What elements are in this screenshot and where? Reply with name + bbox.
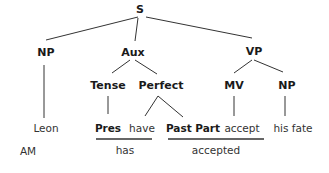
- node-aux: Aux: [121, 47, 144, 58]
- leaf-pres: Pres: [95, 123, 121, 134]
- leaf-his-fate: his fate: [273, 123, 312, 134]
- annotation-accepted: accepted: [192, 145, 240, 156]
- node-mv: MV: [224, 80, 243, 91]
- leaf-leon: Leon: [33, 123, 58, 134]
- node-vp: VP: [246, 46, 263, 57]
- node-tense: Tense: [90, 80, 125, 91]
- node-s: S: [136, 4, 144, 15]
- leaf-have: have: [129, 123, 155, 134]
- node-np-subject: NP: [37, 47, 54, 58]
- node-np-object: NP: [278, 80, 295, 91]
- leaf-past-part: Past Part: [166, 123, 220, 134]
- leaf-accept: accept: [224, 123, 259, 134]
- annotation-am: AM: [20, 146, 36, 157]
- annotation-has: has: [116, 145, 135, 156]
- node-perfect: Perfect: [139, 80, 184, 91]
